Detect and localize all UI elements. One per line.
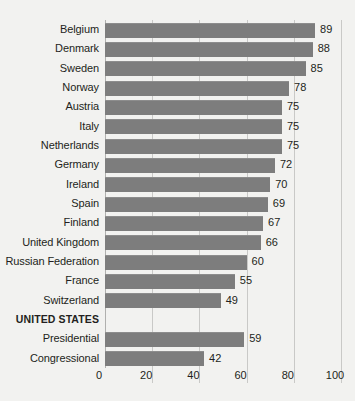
bar [105,61,306,76]
bar-value-label: 69 [273,194,285,213]
chart-row: Finland67 [0,213,355,232]
chart-row: Norway78 [0,78,355,97]
bar-value-label: 88 [318,39,330,58]
chart-row: Russian Federation60 [0,252,355,271]
bar-value-label: 78 [294,78,306,97]
bar [105,255,247,270]
category-label: Belgium [0,20,99,39]
bar [105,177,270,192]
tick-mark-20 [152,368,153,383]
category-label: Switzerland [0,291,99,310]
bar-value-label: 89 [320,20,332,39]
x-tick-label: 100 [326,369,344,381]
chart-row: Netherlands75 [0,136,355,155]
bar-value-label: 59 [249,329,261,348]
chart-row: Congressional42 [0,349,355,368]
bar [105,216,263,231]
x-axis: 020406080100 [0,368,355,388]
bar [105,119,282,134]
category-label: Congressional [0,349,99,368]
chart-row: Sweden85 [0,59,355,78]
category-label: Ireland [0,175,99,194]
bar-value-label: 49 [226,291,238,310]
tick-mark-60 [247,368,248,383]
bar [105,351,204,366]
tick-mark-80 [294,368,295,383]
bar [105,197,268,212]
category-label: Finland [0,213,99,232]
x-tick-label: 0 [96,369,102,381]
bar [105,139,282,154]
bar [105,23,315,38]
bar-value-label: 66 [266,233,278,252]
bar-value-label: 55 [240,271,252,290]
category-label: Norway [0,78,99,97]
bar-rows-container: Belgium89Denmark88Sweden85Norway78Austri… [0,20,355,368]
bar-value-label: 70 [275,175,287,194]
bar-value-label: 75 [287,136,299,155]
chart-row: Presidential59 [0,329,355,348]
chart-row: Switzerland49 [0,291,355,310]
x-tick-label: 40 [187,369,199,381]
group-heading-label: UNITED STATES [0,310,99,329]
category-label: United Kingdom [0,233,99,252]
bar-value-label: 67 [268,213,280,232]
x-tick-label: 80 [282,369,294,381]
chart-row: Germany72 [0,155,355,174]
bar [105,158,275,173]
bar-value-label: 42 [209,349,221,368]
bar-value-label: 72 [280,155,292,174]
category-label: Germany [0,155,99,174]
category-label: Sweden [0,59,99,78]
chart-row: Ireland70 [0,175,355,194]
chart-row: Austria75 [0,97,355,116]
bar-value-label: 60 [252,252,264,271]
chart-row: Denmark88 [0,39,355,58]
chart-row: Belgium89 [0,20,355,39]
category-label: Denmark [0,39,99,58]
bar [105,293,221,308]
category-label: France [0,271,99,290]
chart-row: Italy75 [0,117,355,136]
bar-value-label: 75 [287,97,299,116]
bar [105,100,282,115]
category-label: Russian Federation [0,252,99,271]
category-label: Spain [0,194,99,213]
category-label: Netherlands [0,136,99,155]
bar-value-label: 75 [287,117,299,136]
bar [105,235,261,250]
voter-turnout-bar-chart: Belgium89Denmark88Sweden85Norway78Austri… [0,0,355,401]
bar-value-label: 85 [311,59,323,78]
bar [105,81,289,96]
x-tick-label: 20 [140,369,152,381]
bar [105,332,244,347]
category-label: Austria [0,97,99,116]
category-label: Italy [0,117,99,136]
bar [105,42,313,57]
category-label: Presidential [0,329,99,348]
chart-row: UNITED STATES [0,310,355,329]
bar [105,274,235,289]
tick-mark-40 [199,368,200,383]
chart-row: France55 [0,271,355,290]
x-tick-label: 60 [234,369,246,381]
chart-row: Spain69 [0,194,355,213]
chart-row: United Kingdom66 [0,233,355,252]
